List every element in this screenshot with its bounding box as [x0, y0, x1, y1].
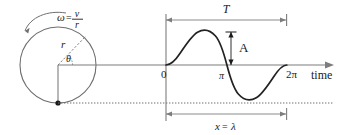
- wavelength-annotation: x = λ: [166, 108, 287, 132]
- wavelength-x-symbol: x: [214, 120, 220, 132]
- amplitude-arrowhead-up-icon: [228, 32, 233, 38]
- omega-symbol: ω: [57, 11, 65, 23]
- tick-label-zero: 0: [161, 68, 167, 80]
- time-axis-label: time: [311, 68, 332, 82]
- amplitude-arrowhead-down-icon: [228, 59, 233, 65]
- wavelength-lambda-symbol: λ: [230, 120, 236, 132]
- figure-canvas: ω = v r r θ 0 π 2π time: [0, 0, 354, 135]
- wavelength-arrowhead-left-icon: [166, 112, 172, 117]
- velocity-numerator: v: [75, 8, 80, 19]
- period-arrowhead-right-icon: [280, 18, 286, 23]
- wave-plot-group: 0 π 2π time T A: [58, 2, 334, 132]
- wavelength-equals-sign: =: [222, 121, 228, 132]
- period-label: T: [223, 2, 231, 16]
- theta-label: θ: [66, 53, 71, 64]
- wavelength-arrowhead-right-icon: [280, 112, 286, 117]
- amplitude-annotation: A: [226, 32, 250, 65]
- period-annotation: T: [166, 2, 287, 26]
- radius-label: r: [61, 38, 66, 50]
- period-arrowhead-left-icon: [166, 18, 172, 23]
- tick-label-two-pi: 2π: [286, 68, 298, 80]
- omega-equals-sign: =: [66, 12, 72, 23]
- amplitude-label: A: [239, 40, 249, 55]
- physics-diagram-figure: ω = v r r θ 0 π 2π time: [0, 0, 354, 135]
- tick-label-pi: π: [219, 70, 225, 81]
- radius-denominator: r: [75, 19, 79, 30]
